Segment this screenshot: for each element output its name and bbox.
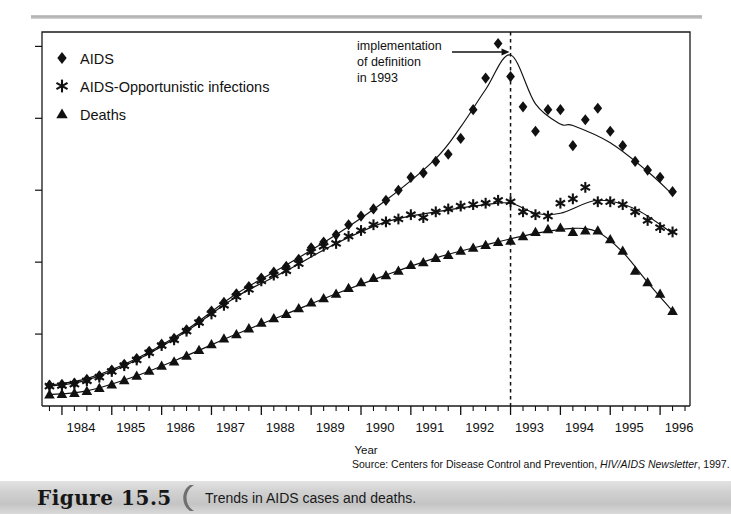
trend-line-deaths: [49, 228, 672, 394]
x-axis-tick-label: 1985: [116, 420, 145, 435]
legend-label: AIDS: [80, 51, 114, 67]
data-point-aids: [581, 114, 590, 125]
data-point-deaths: [231, 329, 242, 338]
legend-triangle-icon: [56, 108, 67, 118]
x-axis-tick-label: 1987: [216, 420, 245, 435]
data-point-aids: [656, 172, 665, 183]
data-point-aids: [444, 149, 453, 160]
data-point-deaths: [555, 222, 566, 231]
data-point-aids: [556, 104, 565, 115]
series-deaths: [44, 222, 678, 398]
data-point-aids: [668, 186, 677, 197]
x-axis-tick-label: 1995: [615, 420, 644, 435]
data-point-aids: [481, 72, 490, 83]
data-point-deaths: [381, 270, 392, 279]
data-point-aids: [568, 140, 577, 151]
data-point-aids: [606, 126, 615, 137]
data-point-aids: [494, 38, 503, 49]
chart-legend: AIDSAIDS-Opportunistic infectionsDeaths: [56, 51, 269, 123]
data-point-aids: [419, 167, 428, 178]
x-axis-tick-label: 1988: [266, 420, 295, 435]
data-point-aids: [382, 195, 391, 206]
data-point-deaths: [530, 227, 541, 236]
data-point-deaths: [356, 277, 367, 286]
data-point-aids: [519, 101, 528, 112]
legend-item-deaths: Deaths: [56, 107, 126, 123]
annotation-line-2: of definition: [357, 55, 421, 69]
figure-caption: Trends in AIDS cases and deaths.: [205, 490, 416, 506]
x-axis-tick-label: 1991: [415, 420, 444, 435]
legend-label: Deaths: [80, 107, 126, 123]
data-point-deaths: [617, 245, 628, 254]
data-point-deaths: [281, 309, 292, 318]
data-point-deaths: [393, 266, 404, 275]
data-point-deaths: [94, 383, 105, 392]
data-point-deaths: [106, 379, 117, 388]
data-point-deaths: [169, 356, 180, 365]
data-point-deaths: [368, 273, 379, 282]
x-axis-labels: 1984198519861987198819891990199119921993…: [66, 420, 693, 456]
data-point-deaths: [605, 234, 616, 243]
legend-item-aids-opportunistic-infections: AIDS-Opportunistic infections: [56, 79, 269, 95]
source-suffix: , 1997.: [698, 458, 730, 470]
data-point-deaths: [418, 257, 429, 266]
data-point-deaths: [580, 225, 591, 234]
x-axis-tick-label: 1986: [166, 420, 195, 435]
chart-plot-area: AIDSAIDS-Opportunistic infectionsDeaths …: [0, 0, 731, 470]
data-point-deaths: [131, 371, 142, 380]
x-axis-tick-label: 1984: [66, 420, 95, 435]
figure-container: AIDSAIDS-Opportunistic infectionsDeaths …: [0, 0, 731, 514]
x-axis-tick-label: 1992: [465, 420, 494, 435]
source-publication: HIV/AIDS Newsletter: [600, 458, 697, 470]
legend-item-aids: AIDS: [57, 51, 114, 67]
data-point-aids: [593, 103, 602, 114]
data-point-aids: [369, 203, 378, 214]
data-point-aids: [406, 172, 415, 183]
data-point-deaths: [543, 224, 554, 233]
source-note: Source: Centers for Disease Control and …: [352, 458, 730, 470]
data-point-aids: [394, 185, 403, 196]
source-prefix: Source: Centers for Disease Control and …: [352, 458, 600, 470]
data-point-deaths: [331, 289, 342, 298]
x-axis-tick-label: 1990: [366, 420, 395, 435]
caption-swoosh-icon: [176, 484, 198, 512]
data-point-deaths: [119, 375, 130, 384]
legend-diamond-icon: [57, 52, 66, 64]
x-axis-tick-label: 1993: [515, 420, 544, 435]
x-axis-tick-label: 1994: [565, 420, 594, 435]
data-point-aids: [631, 156, 640, 167]
x-axis-title: Year: [354, 444, 377, 456]
trend-lines-layer: [49, 55, 672, 395]
figure-number: Figure 15.5: [37, 486, 172, 510]
data-point-deaths: [194, 345, 205, 354]
annotation-line-1: implementation: [357, 39, 442, 53]
data-point-deaths: [443, 250, 454, 259]
data-point-aids: [531, 126, 540, 137]
data-point-aids: [431, 156, 440, 167]
x-axis-tick-label: 1996: [665, 420, 694, 435]
data-point-aids: [456, 133, 465, 144]
annotation-line-3: in 1993: [357, 71, 398, 85]
data-point-deaths: [181, 350, 192, 359]
data-point-deaths: [630, 266, 641, 275]
legend-label: AIDS-Opportunistic infections: [80, 79, 269, 95]
x-axis-tick-label: 1989: [316, 420, 345, 435]
